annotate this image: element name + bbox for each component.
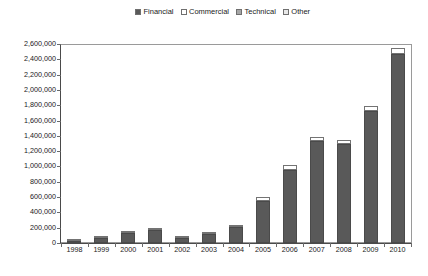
bar-segment-financial — [391, 54, 405, 243]
bar-slot — [223, 44, 250, 243]
x-axis-tick-label: 1998 — [66, 246, 82, 253]
bar-segment-financial — [94, 238, 108, 243]
x-axis-tick-label: 2007 — [309, 246, 325, 253]
y-axis-tick-label: 1,200,000 — [24, 148, 56, 155]
chart-legend: FinancialCommercialTechnicalOther — [135, 6, 310, 18]
bar-slot — [303, 44, 330, 243]
bar-slot — [196, 44, 223, 243]
stacked-bar[interactable] — [337, 140, 351, 243]
y-axis-tick-mark — [57, 197, 61, 198]
legend-swatch-financial-icon — [135, 9, 141, 15]
x-axis-line — [60, 243, 412, 244]
stacked-bar[interactable] — [175, 236, 189, 243]
y-axis-tick-mark — [57, 75, 61, 76]
x-axis-tick-mark — [249, 243, 250, 247]
y-axis-tick-label: 800,000 — [30, 178, 56, 185]
stacked-bar[interactable] — [364, 106, 378, 243]
stacked-bar[interactable] — [229, 225, 243, 243]
y-axis-tick-mark — [57, 90, 61, 91]
legend-swatch-other-icon — [283, 9, 289, 15]
x-axis-tick-label: 2004 — [228, 246, 244, 253]
legend-item-financial: Financial — [135, 8, 174, 16]
chart-page: FinancialCommercialTechnicalOther 0200,0… — [0, 0, 428, 276]
y-axis-tick-label: 1,000,000 — [24, 163, 56, 170]
bar-slot — [330, 44, 357, 243]
bar-slot — [88, 44, 115, 243]
x-axis-tick-label: 2006 — [282, 246, 298, 253]
x-axis-tick-label: 2001 — [147, 246, 163, 253]
x-axis-tick-mark — [196, 243, 197, 247]
x-axis-tick-label: 2010 — [390, 246, 406, 253]
stacked-bar[interactable] — [202, 232, 216, 243]
bar-slot — [249, 44, 276, 243]
stacked-bar[interactable] — [283, 165, 297, 243]
y-axis-tick-label: 400,000 — [30, 209, 56, 216]
bar-slot — [61, 44, 88, 243]
bar-segment-financial — [364, 111, 378, 243]
x-axis-tick-mark — [61, 243, 62, 247]
x-axis-tick-label: 2003 — [201, 246, 217, 253]
bar-slot — [142, 44, 169, 243]
bar-segment-financial — [310, 141, 324, 243]
bar-slot — [115, 44, 142, 243]
x-axis-tick-label: 2005 — [255, 246, 271, 253]
stacked-bar[interactable] — [148, 228, 162, 243]
stacked-bar[interactable] — [67, 239, 81, 243]
legend-label: Other — [291, 8, 310, 16]
y-axis-tick-label: 200,000 — [30, 224, 56, 231]
x-axis-tick-mark — [223, 243, 224, 247]
y-axis-tick-mark — [57, 228, 61, 229]
y-axis-tick-label: 1,400,000 — [24, 132, 56, 139]
y-axis-labels: 0200,000400,000600,000800,0001,000,0001,… — [0, 0, 56, 276]
x-axis-tick-mark — [303, 243, 304, 247]
stacked-bar[interactable] — [256, 197, 270, 243]
y-axis-tick-mark — [57, 182, 61, 183]
x-axis-tick-mark — [142, 243, 143, 247]
x-axis-tick-mark — [330, 243, 331, 247]
x-axis-tick-mark — [384, 243, 385, 247]
legend-item-technical: Technical — [236, 8, 276, 16]
legend-label: Technical — [245, 8, 276, 16]
legend-swatch-commercial-icon — [181, 9, 187, 15]
y-axis-tick-label: 1,600,000 — [24, 117, 56, 124]
stacked-bar[interactable] — [94, 236, 108, 243]
bar-segment-financial — [229, 227, 243, 243]
y-axis-tick-mark — [57, 166, 61, 167]
x-axis-tick-mark — [88, 243, 89, 247]
y-axis-tick-mark — [57, 212, 61, 213]
y-axis-tick-label: 1,800,000 — [24, 102, 56, 109]
bar-segment-financial — [148, 230, 162, 243]
bar-segment-financial — [121, 233, 135, 243]
legend-label: Commercial — [189, 8, 229, 16]
bar-segment-financial — [175, 238, 189, 243]
stacked-bar[interactable] — [391, 48, 405, 243]
legend-item-commercial: Commercial — [181, 8, 230, 16]
stacked-bar[interactable] — [310, 137, 324, 243]
x-axis-tick-mark — [276, 243, 277, 247]
y-axis-tick-label: 2,400,000 — [24, 56, 56, 63]
y-axis-tick-mark — [57, 136, 61, 137]
legend-label: Financial — [144, 8, 174, 16]
x-axis-tick-label: 2000 — [120, 246, 136, 253]
legend-swatch-technical-icon — [236, 9, 242, 15]
y-axis-tick-mark — [57, 151, 61, 152]
y-axis-tick-mark — [57, 105, 61, 106]
y-axis-tick-label: 2,000,000 — [24, 86, 56, 93]
x-axis-tick-label: 2008 — [336, 246, 352, 253]
legend-item-other: Other — [283, 8, 310, 16]
bar-slot — [384, 44, 411, 243]
bar-segment-financial — [202, 234, 216, 243]
x-axis-tick-label: 1999 — [93, 246, 109, 253]
bar-slot — [357, 44, 384, 243]
bar-segment-financial — [337, 144, 351, 243]
y-axis-tick-label: 2,200,000 — [24, 71, 56, 78]
x-axis-tick-label: 2009 — [363, 246, 379, 253]
y-axis-tick-label: 0 — [52, 239, 56, 246]
x-axis-tick-mark — [357, 243, 358, 247]
stacked-bar[interactable] — [121, 231, 135, 243]
bar-segment-financial — [283, 170, 297, 243]
y-axis-tick-label: 2,600,000 — [24, 40, 56, 47]
bar-slot — [169, 44, 196, 243]
bar-series-container — [61, 44, 411, 243]
y-axis-tick-mark — [57, 59, 61, 60]
